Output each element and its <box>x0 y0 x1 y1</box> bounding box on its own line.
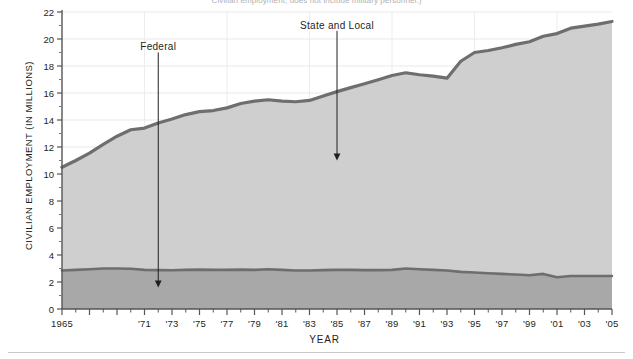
x-tick-label: '89 <box>386 318 399 329</box>
x-axis-title: YEAR <box>0 334 633 345</box>
x-tick-label: '77 <box>221 318 234 329</box>
y-tick-label: 12 <box>16 142 54 153</box>
x-tick-label: '85 <box>331 318 344 329</box>
y-tick-label: 0 <box>16 304 54 315</box>
x-tick-label: '83 <box>303 318 316 329</box>
x-tick-label: '87 <box>358 318 371 329</box>
page-divider <box>8 352 625 353</box>
y-tick-label: 18 <box>16 61 54 72</box>
y-tick-label: 4 <box>16 250 54 261</box>
annotation-label-federal: Federal <box>140 41 176 52</box>
y-tick-label: 2 <box>16 277 54 288</box>
y-tick-label: 22 <box>16 7 54 18</box>
x-tick-label: '91 <box>413 318 426 329</box>
x-tick-label: '79 <box>248 318 261 329</box>
chart-plot-area <box>0 0 633 359</box>
y-tick-label: 6 <box>16 223 54 234</box>
x-tick-label: '03 <box>578 318 591 329</box>
x-tick-label: '95 <box>468 318 481 329</box>
x-tick-label: '75 <box>193 318 206 329</box>
x-tick-label: '97 <box>496 318 509 329</box>
annotation-label-state-and-local: State and Local <box>300 20 374 31</box>
x-tick-label: '81 <box>276 318 289 329</box>
x-tick-label: '99 <box>523 318 536 329</box>
x-tick-label: '01 <box>551 318 564 329</box>
y-tick-label: 14 <box>16 115 54 126</box>
chart-figure: Civilian employment; does not include mi… <box>0 0 633 359</box>
y-tick-label: 10 <box>16 169 54 180</box>
y-tick-label: 16 <box>16 88 54 99</box>
x-tick-label: '71 <box>138 318 151 329</box>
x-tick-label: '73 <box>166 318 179 329</box>
x-tick-label: '05 <box>606 318 619 329</box>
x-tick-label: 1965 <box>51 318 73 329</box>
y-tick-label: 20 <box>16 34 54 45</box>
y-tick-label: 8 <box>16 196 54 207</box>
x-tick-label: '93 <box>441 318 454 329</box>
